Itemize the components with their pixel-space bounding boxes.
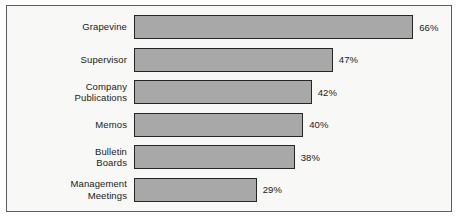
bar-value-label: 42% <box>318 87 337 98</box>
bar-row: Management Meetings 29% <box>7 178 451 202</box>
bar-track: 66% <box>134 15 451 39</box>
bar-track: 42% <box>134 80 451 104</box>
bar-category-label: Memos <box>7 119 134 131</box>
bar-grapevine <box>134 15 413 39</box>
bar-management-meetings <box>134 178 257 202</box>
bar-category-label: Grapevine <box>7 21 134 33</box>
bar-category-label: Bulletin Boards <box>7 146 134 169</box>
bar-company-publications <box>134 80 312 104</box>
bar-category-label: Company Publications <box>7 81 134 104</box>
bar-supervisor <box>134 48 333 72</box>
bar-track: 38% <box>134 145 451 169</box>
bar-category-label: Supervisor <box>7 54 134 66</box>
bar-track: 47% <box>134 48 451 72</box>
bar-track: 40% <box>134 113 451 137</box>
bar-bulletin-boards <box>134 145 295 169</box>
bar-row: Bulletin Boards 38% <box>7 145 451 169</box>
bar-row: Grapevine 66% <box>7 15 451 39</box>
chart-frame: Grapevine 66% Supervisor 47% Company Pub… <box>6 5 452 212</box>
bar-row: Supervisor 47% <box>7 48 451 72</box>
bar-value-label: 66% <box>419 22 438 33</box>
bar-memos <box>134 113 303 137</box>
plot-area: Grapevine 66% Supervisor 47% Company Pub… <box>7 6 451 211</box>
bar-value-label: 29% <box>263 184 282 195</box>
bar-row: Memos 40% <box>7 113 451 137</box>
bar-row: Company Publications 42% <box>7 80 451 104</box>
bar-category-label: Management Meetings <box>7 178 134 201</box>
bar-value-label: 47% <box>339 54 358 65</box>
bar-value-label: 38% <box>301 152 320 163</box>
bar-track: 29% <box>134 178 451 202</box>
bar-value-label: 40% <box>309 119 328 130</box>
